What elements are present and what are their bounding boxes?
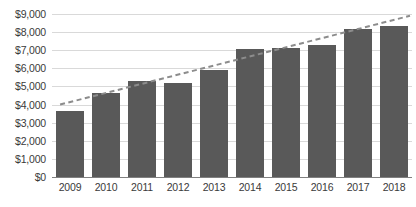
- bar-chart: $0$1,000$2,000$3,000$4,000$5,000$6,000$7…: [0, 0, 416, 207]
- x-axis-tick-label: 2012: [160, 181, 196, 193]
- x-axis-tick-label: 2011: [124, 181, 160, 193]
- y-axis-tick-label: $5,000: [15, 80, 46, 92]
- bar: [200, 70, 228, 177]
- x-axis-tick-label: 2015: [268, 181, 304, 193]
- y-axis-tick-label: $3,000: [15, 117, 46, 129]
- x-axis-tick-label: 2010: [88, 181, 124, 193]
- y-axis-tick-label: $1,000: [15, 153, 46, 165]
- x-axis-tick-label: 2013: [196, 181, 232, 193]
- bar: [380, 26, 408, 177]
- x-axis-tick-label: 2018: [376, 181, 412, 193]
- gridline: [52, 177, 412, 178]
- y-axis: $0$1,000$2,000$3,000$4,000$5,000$6,000$7…: [0, 0, 50, 207]
- y-axis-tick-label: $7,000: [15, 44, 46, 56]
- bar: [308, 45, 336, 177]
- bar: [92, 93, 120, 177]
- x-axis: 2009201020112012201320142015201620172018: [52, 181, 412, 203]
- bar: [344, 29, 372, 177]
- y-axis-tick-label: $8,000: [15, 26, 46, 38]
- x-axis-tick-label: 2017: [340, 181, 376, 193]
- bar: [128, 81, 156, 177]
- bar: [164, 83, 192, 177]
- x-axis-tick-label: 2009: [52, 181, 88, 193]
- y-axis-tick-label: $9,000: [15, 8, 46, 20]
- y-axis-tick-label: $4,000: [15, 99, 46, 111]
- x-axis-tick-label: 2016: [304, 181, 340, 193]
- bar: [272, 48, 300, 177]
- x-axis-tick-label: 2014: [232, 181, 268, 193]
- bar-series: [52, 14, 412, 177]
- y-axis-tick-label: $0: [35, 171, 46, 183]
- y-axis-tick-label: $2,000: [15, 135, 46, 147]
- plot-area: [52, 14, 412, 177]
- bar: [56, 111, 84, 177]
- y-axis-tick-label: $6,000: [15, 62, 46, 74]
- bar: [236, 49, 264, 177]
